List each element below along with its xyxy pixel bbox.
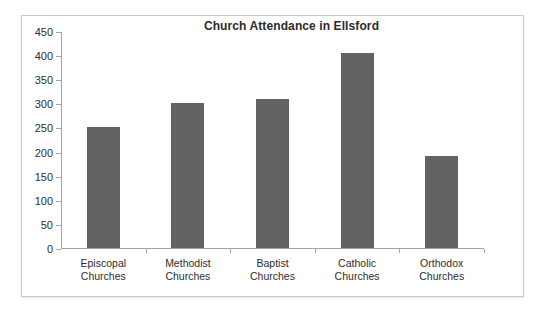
y-axis-tick-mark: [56, 80, 61, 81]
x-axis-category-label-line: Catholic: [335, 257, 380, 270]
x-axis-category-label-line: Churches: [165, 270, 211, 283]
x-axis-tick-mark: [146, 249, 147, 253]
y-axis-tick-label: 400: [35, 50, 53, 62]
y-axis-tick-mark: [56, 56, 61, 57]
x-axis-category-label: BaptistChurches: [250, 257, 295, 283]
bar: [87, 127, 120, 248]
y-axis-tick-label: 100: [35, 195, 53, 207]
chart-title: Church Attendance in Ellsford: [22, 19, 523, 33]
y-axis-tick-mark: [56, 249, 61, 250]
bar: [425, 156, 458, 248]
x-axis-category-label: OrthodoxChurches: [419, 257, 464, 283]
x-axis-category-label-line: Baptist: [250, 257, 295, 270]
x-axis-category-label: EpiscopalChurches: [81, 257, 127, 283]
y-axis-tick-label: 200: [35, 147, 53, 159]
bar: [341, 53, 374, 248]
y-axis-tick-mark: [56, 128, 61, 129]
x-axis-category-label-line: Orthodox: [419, 257, 464, 270]
x-axis-line: [61, 248, 484, 249]
x-axis-category-label-line: Churches: [419, 270, 464, 283]
plot-area: 450400350300250200150100500 EpiscopalChu…: [61, 32, 484, 249]
x-axis-category-label-line: Methodist: [165, 257, 211, 270]
y-axis-tick-mark: [56, 153, 61, 154]
y-axis-tick-mark: [56, 177, 61, 178]
y-axis-tick-mark: [56, 104, 61, 105]
y-axis-tick-label: 50: [41, 219, 53, 231]
y-axis-tick-label: 300: [35, 98, 53, 110]
y-axis-tick-mark: [56, 201, 61, 202]
bar: [256, 99, 289, 248]
x-axis-tick-mark: [399, 249, 400, 253]
y-axis-line: [61, 32, 62, 249]
y-axis-tick-label: 250: [35, 122, 53, 134]
chart-frame: Church Attendance in Ellsford 4504003503…: [21, 15, 524, 297]
y-axis-tick-label: 0: [47, 243, 53, 255]
y-axis-tick-label: 450: [35, 26, 53, 38]
bar: [171, 103, 204, 248]
x-axis-tick-mark: [230, 249, 231, 253]
x-axis-tick-mark: [315, 249, 316, 253]
x-axis-category-label-line: Churches: [335, 270, 380, 283]
x-axis-category-label-line: Episcopal: [81, 257, 127, 270]
y-axis-tick-label: 350: [35, 74, 53, 86]
x-axis-category-label: MethodistChurches: [165, 257, 211, 283]
x-axis-category-label-line: Churches: [81, 270, 127, 283]
x-axis-tick-mark: [484, 249, 485, 253]
y-axis-tick-mark: [56, 225, 61, 226]
y-axis-tick-label: 150: [35, 171, 53, 183]
x-axis-category-label-line: Churches: [250, 270, 295, 283]
x-axis-category-label: CatholicChurches: [335, 257, 380, 283]
y-axis-tick-mark: [56, 32, 61, 33]
